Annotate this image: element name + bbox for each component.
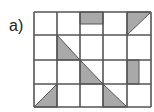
shape-triangle-r2c2 xyxy=(80,60,103,84)
shaded-grid-diagram xyxy=(0,0,154,112)
shape-triangle-r3c0 xyxy=(34,84,57,107)
shape-triangle-r0c4 xyxy=(127,12,151,35)
shape-triangle-r1c1 xyxy=(57,35,80,60)
shape-rect-r0c2 xyxy=(80,12,103,24)
shape-rect-r2c4 xyxy=(127,60,139,84)
shape-triangle-r3c3 xyxy=(103,84,127,107)
